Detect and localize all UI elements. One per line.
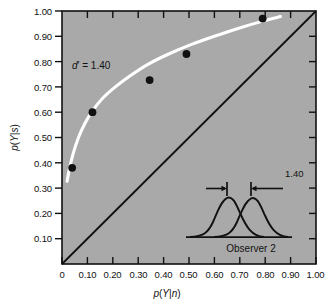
x-tick-label: 1.00 — [300, 269, 331, 280]
inset-caption-label: Observer 2 — [196, 243, 306, 254]
y-tick-label: 0.90 — [10, 31, 52, 42]
inset-separation-label: 1.40 — [285, 168, 304, 179]
roc-plot-canvas — [0, 0, 334, 305]
y-tick-label: 0.80 — [10, 57, 52, 68]
data-point — [89, 108, 97, 116]
y-tick-label: 0.20 — [10, 208, 52, 219]
x-axis-title: p(Y|n) — [0, 288, 334, 299]
y-axis-ticks — [55, 11, 62, 239]
y-tick-label: 0.10 — [10, 233, 52, 244]
dprime-annotation: d′ = 1.40 — [72, 60, 110, 71]
y-tick-label: 0.30 — [10, 183, 52, 194]
y-tick-label: 1.00 — [10, 6, 52, 17]
y-axis-title: p(Y|s) — [9, 108, 20, 168]
data-point — [68, 164, 76, 172]
data-point — [146, 76, 154, 84]
y-tick-label: 0.70 — [10, 82, 52, 93]
roc-figure: 1.00 0.90 0.80 0.70 0.60 0.50 0.40 0.30 … — [0, 0, 334, 305]
data-point — [183, 50, 191, 58]
